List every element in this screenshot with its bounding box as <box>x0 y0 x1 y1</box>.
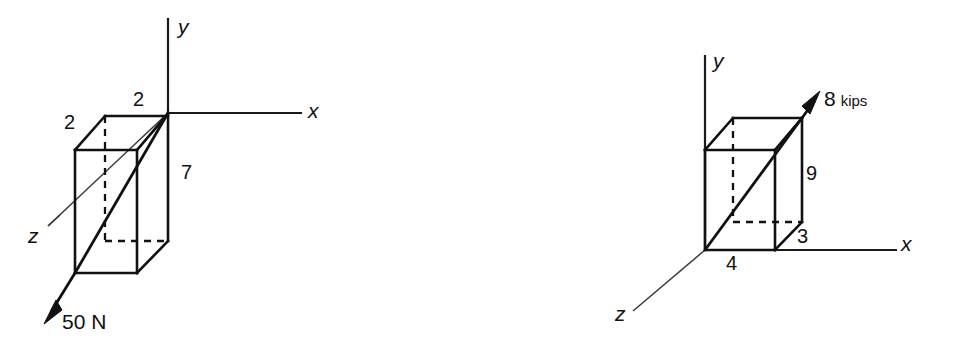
left-box-bottom-right-depth-edge <box>137 241 168 273</box>
left-z-axis-tip <box>48 215 60 226</box>
left-z-axis-label: z <box>28 225 39 246</box>
right-force-diagonal <box>705 118 802 250</box>
right-dim-height-label: 9 <box>806 163 817 183</box>
right-y-axis-label: y <box>713 50 724 71</box>
right-dim-depth-label: 3 <box>797 226 808 246</box>
left-force-arrow-head <box>44 300 62 324</box>
right-force-unit: kips <box>841 92 868 109</box>
right-force-magnitude: 8 <box>824 87 836 110</box>
right-z-axis <box>633 250 705 311</box>
right-box-top-left-depth-edge <box>705 118 733 150</box>
left-dim-width-label: 2 <box>133 89 144 109</box>
right-x-axis-label: x <box>901 233 912 254</box>
left-box-top-left-depth-edge <box>75 116 105 150</box>
left-dim-depth-label: 2 <box>64 112 75 132</box>
left-y-axis-label: y <box>178 16 189 37</box>
left-box-corner-diagonal <box>137 113 168 150</box>
right-force-label: 8kips <box>824 88 867 109</box>
right-box-corner-diagonal <box>775 118 802 150</box>
right-z-axis-label: z <box>615 303 626 324</box>
left-diagram-group <box>44 18 302 324</box>
right-force-arrow-head <box>802 91 820 114</box>
left-x-axis-label: x <box>308 100 319 121</box>
left-force-label: 50 N <box>62 311 106 332</box>
left-dim-height-label: 7 <box>181 162 192 182</box>
left-force-diagonal <box>75 113 168 273</box>
diagram-page: y x z 2 2 7 50 N y x z 9 3 4 8kips <box>0 0 960 348</box>
right-dim-width-label: 4 <box>726 253 737 273</box>
